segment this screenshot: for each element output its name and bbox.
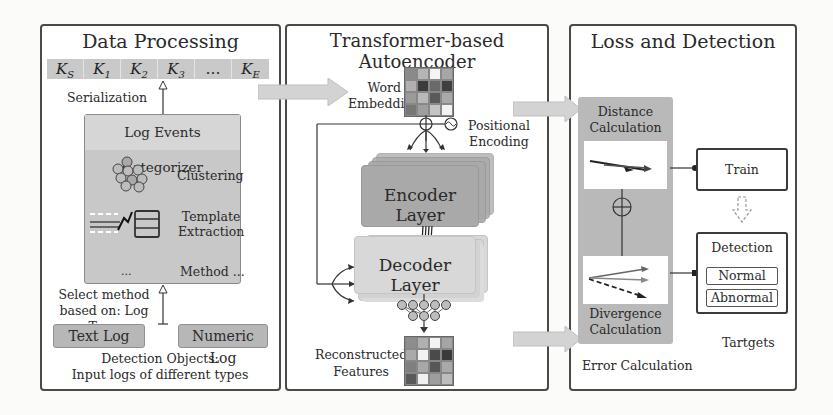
key-cell-2: K2 (121, 59, 158, 79)
flow-arrow-to-divergence-icon (513, 326, 583, 352)
encoder-layer: Encoder Layer (361, 165, 479, 227)
train-box[interactable]: Train (696, 148, 788, 191)
serialization-arrow-icon (157, 80, 169, 116)
train-to-detection-arrow-icon (731, 196, 753, 224)
key-cell-ellipsis: … (195, 59, 232, 79)
numeric-log-button[interactable]: Numeric Log (178, 324, 268, 348)
template-extraction-icon (88, 208, 163, 244)
method-more-label: Method ... (180, 264, 245, 279)
train-label: Train (698, 162, 786, 177)
detection-label: Detection (698, 240, 786, 255)
autoencoder-title: Transformer-based Autoencoder (287, 30, 547, 72)
data-processing-title: Data Processing (42, 30, 279, 52)
detection-objects-label: Detection Objects: Input logs of differe… (60, 351, 260, 383)
divergence-vectors-icon (583, 256, 668, 304)
key-sequence: KS K1 K2 K3 … KE (47, 59, 269, 79)
key-cell-3: K3 (158, 59, 195, 79)
output-network-icon (395, 294, 455, 334)
template-extraction-label: Template Extraction (178, 209, 244, 239)
distance-visual (584, 141, 667, 189)
divergence-calculation-label: Divergence Calculation (578, 306, 673, 338)
error-calculation-label: Error Calculation (582, 358, 693, 373)
distance-calculation-label: Distance Calculation (578, 104, 673, 136)
cluster-icon (110, 156, 150, 194)
reconstructed-features-label: Reconstructed Features (315, 346, 407, 380)
flow-arrow-to-distance-icon (513, 96, 583, 122)
categorizer-ellipsis: ... (121, 265, 132, 278)
key-cell-end: KE (232, 59, 269, 79)
divergence-visual (583, 256, 668, 304)
key-cell-start: KS (47, 59, 84, 79)
word-embedding-matrix (404, 67, 454, 117)
flow-arrow-to-autoencoder-icon (258, 78, 350, 106)
decoder-layer: Decoder Layer (354, 236, 476, 294)
normal-outcome[interactable]: Normal (706, 267, 778, 285)
abnormal-outcome[interactable]: Abnormal (706, 289, 778, 307)
targets-label: Tartgets (722, 335, 775, 350)
key-cell-1: K1 (84, 59, 121, 79)
log-events-categorizer: Log Events Categorizer (84, 114, 241, 284)
loss-detection-title: Loss and Detection (571, 30, 795, 52)
distance-vectors-icon (584, 141, 667, 189)
clustering-label: Clustering (177, 168, 243, 183)
positional-encoding-label: Positional Encoding (468, 118, 530, 150)
text-log-button[interactable]: Text Log (53, 324, 145, 348)
reconstructed-features-matrix (404, 336, 454, 386)
categorizer-title: Log Events Categorizer (85, 115, 240, 150)
serialization-label: Serialization (67, 90, 147, 105)
